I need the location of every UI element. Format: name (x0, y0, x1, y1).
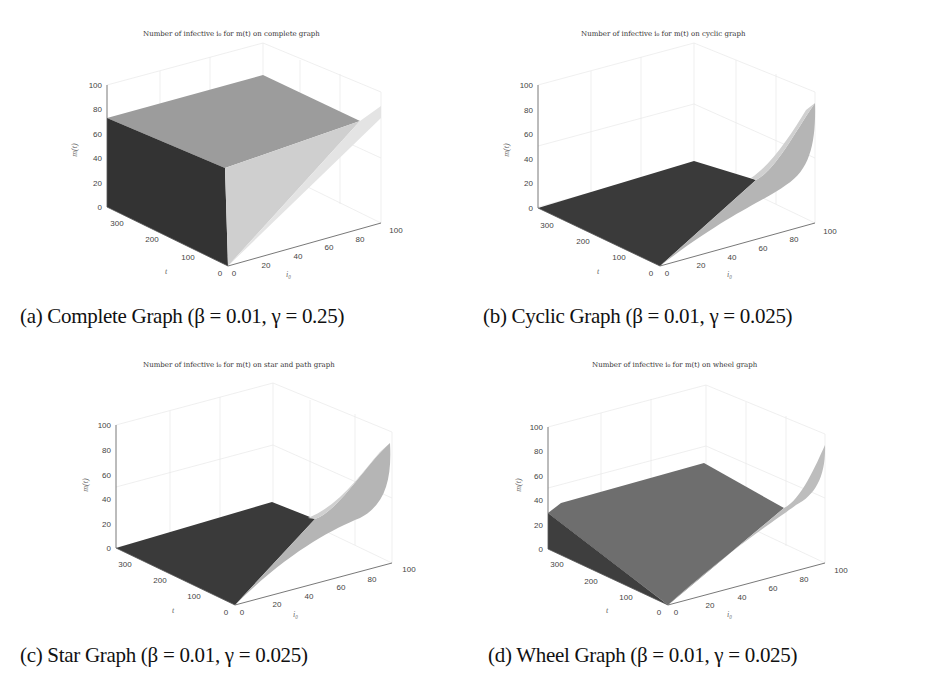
z-tick: 60 (93, 130, 102, 139)
t-tick: 100 (619, 593, 633, 602)
z-axis-label: m(t) (70, 143, 79, 157)
z-tick: 40 (534, 496, 543, 505)
i0-tick: 20 (262, 261, 271, 270)
t-tick: 0 (649, 269, 654, 278)
i0-tick: 80 (368, 575, 377, 584)
i0-tick: 100 (834, 566, 848, 575)
z-tick: 20 (524, 179, 533, 188)
i0-tick: 40 (738, 593, 747, 602)
t-tick: 300 (118, 560, 132, 569)
surface-plot-b: 0 20 40 60 80 100 0 100 200 300 0 20 40 … (466, 0, 932, 300)
t-tick: 300 (110, 219, 124, 228)
t-tick: 200 (153, 576, 167, 585)
panel-c: Number of infective i₀ for m(t) on star … (0, 350, 466, 690)
t-axis-label: t (165, 267, 168, 276)
t-axis-label: t (172, 606, 175, 615)
z-tick: 100 (520, 81, 534, 90)
panel-b: Number of infective i₀ for m(t) on cycli… (466, 0, 932, 340)
i0-axis-label: i₀ (286, 270, 291, 279)
i0-tick: 60 (325, 243, 334, 252)
i0-tick: 0 (665, 269, 670, 278)
surface-plot-c: 0 20 40 60 80 100 0 100 200 300 0 20 40 … (0, 350, 466, 640)
caption-c: (c) Star Graph (β = 0.01, γ = 0.025) (20, 643, 308, 668)
z-tick: 100 (98, 421, 112, 430)
i0-axis-label: i₀ (727, 270, 732, 279)
t-tick: 100 (612, 253, 626, 262)
t-tick: 200 (584, 577, 598, 586)
i0-tick: 100 (402, 565, 416, 574)
z-tick: 80 (93, 105, 102, 114)
i0-tick: 0 (232, 269, 237, 278)
t-tick: 0 (657, 608, 662, 617)
t-tick: 100 (181, 253, 195, 262)
i0-tick: 60 (759, 244, 768, 253)
z-tick: 0 (539, 545, 544, 554)
i0-tick: 40 (728, 253, 737, 262)
z-tick: 80 (534, 447, 543, 456)
t-tick: 200 (145, 235, 159, 244)
surface-plot-d: 0 20 40 60 80 100 0 100 200 300 0 20 40 … (466, 350, 932, 640)
i0-tick: 20 (697, 261, 706, 270)
z-tick: 60 (524, 130, 533, 139)
t-tick: 200 (576, 237, 590, 246)
i0-tick: 100 (389, 226, 403, 235)
t-tick: 300 (550, 560, 564, 569)
z-tick: 0 (529, 204, 534, 213)
i0-tick: 0 (674, 608, 679, 617)
caption-d: (d) Wheel Graph (β = 0.01, γ = 0.025) (488, 643, 797, 668)
z-tick: 80 (102, 446, 111, 455)
i0-tick: 20 (706, 601, 715, 610)
i0-tick: 60 (337, 583, 346, 592)
z-tick: 100 (530, 423, 544, 432)
z-axis-label: m(t) (514, 478, 523, 492)
i0-tick: 20 (273, 600, 282, 609)
i0-tick: 40 (294, 252, 303, 261)
i0-tick: 40 (305, 592, 314, 601)
z-tick: 100 (89, 81, 103, 90)
t-axis-label: t (606, 606, 609, 615)
i0-tick: 80 (790, 235, 799, 244)
panel-d: Number of infective i₀ for m(t) on wheel… (466, 350, 932, 690)
i0-tick: 60 (769, 584, 778, 593)
z-tick: 60 (534, 472, 543, 481)
i0-axis-label: i₀ (727, 610, 732, 619)
z-tick: 20 (93, 179, 102, 188)
caption-a: (a) Complete Graph (β = 0.01, γ = 0.25) (20, 304, 344, 329)
z-tick: 0 (98, 203, 103, 212)
z-tick: 20 (534, 521, 543, 530)
z-tick: 0 (107, 544, 112, 553)
z-axis-label: m(t) (81, 478, 90, 492)
i0-axis-label: i₀ (293, 610, 298, 619)
t-axis-label: t (597, 267, 600, 276)
z-tick: 60 (102, 471, 111, 480)
z-tick: 20 (102, 520, 111, 529)
z-tick: 40 (93, 154, 102, 163)
t-tick: 100 (187, 592, 201, 601)
i0-tick: 80 (800, 575, 809, 584)
caption-b: (b) Cyclic Graph (β = 0.01, γ = 0.025) (483, 304, 792, 329)
i0-tick: 100 (823, 227, 837, 236)
i0-tick: 0 (240, 608, 245, 617)
surface-plot-a: 0 20 40 60 80 100 0 100 200 300 0 20 40 … (0, 0, 466, 300)
panel-a: Number of infective i₀ for m(t) on compl… (0, 0, 466, 340)
t-tick: 0 (224, 608, 229, 617)
i0-tick: 80 (356, 235, 365, 244)
t-tick: 0 (218, 269, 223, 278)
t-tick: 300 (540, 221, 554, 230)
z-tick: 80 (524, 106, 533, 115)
z-tick: 40 (102, 495, 111, 504)
z-tick: 40 (524, 155, 533, 164)
z-axis-label: m(t) (502, 143, 511, 157)
